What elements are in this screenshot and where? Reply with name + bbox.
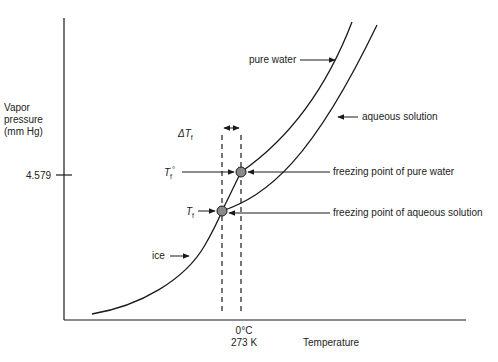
tf0-label: Tf° xyxy=(164,165,175,180)
aqueous-solution-label: aqueous solution xyxy=(362,111,438,122)
y-tick-label: 4.579 xyxy=(26,170,51,181)
ice-curve xyxy=(92,172,241,314)
x-tick-label-kelvin: 273 K xyxy=(231,337,257,348)
pure-water-label: pure water xyxy=(249,54,297,65)
aqueous-solution-curve xyxy=(222,25,377,211)
vapor-pressure-diagram: Vapor pressure (mm Hg) 4.579 0°C 273 K T… xyxy=(0,0,498,362)
x-tick-label-celsius: 0°C xyxy=(236,325,253,336)
fp-solution-label: freezing point of aqueous solution xyxy=(333,207,483,218)
fp-pure-water-label: freezing point of pure water xyxy=(333,166,455,177)
tf-label: Tf xyxy=(186,206,194,219)
ice-label: ice xyxy=(152,250,165,261)
x-axis-label: Temperature xyxy=(303,337,360,348)
y-axis-label-line1: Vapor xyxy=(4,102,31,113)
freezing-point-pure-water-marker xyxy=(236,167,246,177)
y-axis-label-line2: pressure xyxy=(4,114,43,125)
delta-tf-label: ΔTf xyxy=(177,128,193,141)
pure-water-curve xyxy=(241,22,352,172)
freezing-point-solution-marker xyxy=(217,206,227,216)
y-axis-label-line3: (mm Hg) xyxy=(4,126,43,137)
